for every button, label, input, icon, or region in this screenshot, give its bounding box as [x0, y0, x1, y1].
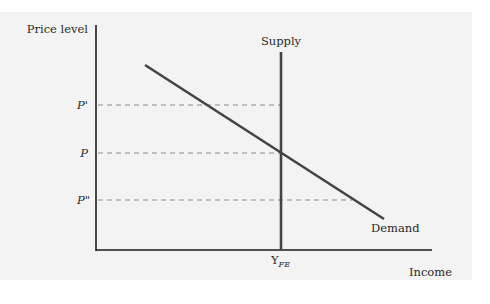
y-axis-label: Price level	[27, 22, 89, 36]
x-axis-label: Income	[409, 265, 452, 279]
yfe-tick-label: YFE	[270, 253, 290, 269]
demand-label: Demand	[371, 221, 420, 235]
p-tick-label: P	[79, 146, 88, 160]
supply-label: Supply	[261, 34, 302, 48]
yfe-subscript: FE	[278, 260, 291, 269]
p-prime-tick-label: P'	[76, 98, 88, 112]
demand-curve	[145, 65, 384, 219]
ad-as-diagram: Price level Supply Demand Income P' P P"…	[0, 0, 490, 304]
p-double-prime-tick-label: P"	[76, 193, 90, 207]
